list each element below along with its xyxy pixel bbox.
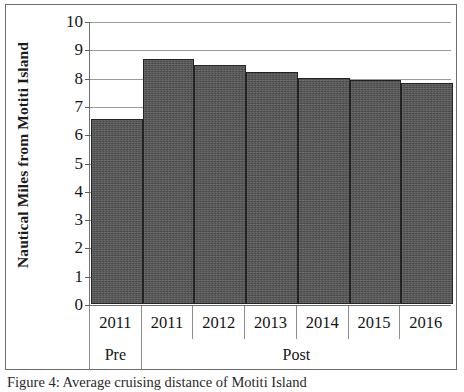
y-tick-label-9: 9 [57, 41, 83, 58]
y-tick-label-2: 2 [57, 239, 83, 256]
x-axis-year-cell: 2011 [89, 306, 141, 339]
bar[interactable] [350, 80, 402, 304]
x-axis-year-cell: 2015 [348, 306, 400, 339]
y-axis-title-container: Nautical Miles from Motiti Island [6, 5, 40, 305]
x-axis-year-cell: 2014 [296, 306, 348, 339]
bar[interactable] [298, 78, 350, 304]
y-tick-mark-6 [85, 135, 90, 136]
x-axis-year-row: 2011201120122013201420152016 [89, 306, 451, 339]
plot-area [89, 22, 451, 306]
figure-frame: Nautical Miles from Motiti Island 109876… [5, 4, 457, 370]
bar[interactable] [194, 65, 246, 304]
y-tick-mark-3 [85, 220, 90, 221]
y-axis-tick-labels: 109876543210 [55, 22, 83, 306]
y-axis-title: Nautical Miles from Motiti Island [14, 42, 32, 268]
y-tick-mark-9 [85, 50, 90, 51]
bar[interactable] [143, 59, 195, 304]
y-tick-label-5: 5 [57, 155, 83, 172]
y-tick-label-7: 7 [57, 98, 83, 115]
x-axis-year-cell: 2012 [192, 306, 244, 339]
bar-series [91, 22, 451, 304]
y-tick-mark-1 [85, 277, 90, 278]
x-axis-year-cell: 2013 [244, 306, 296, 339]
y-tick-label-3: 3 [57, 211, 83, 228]
x-axis-label-table: 2011201120122013201420152016 PrePost [89, 306, 451, 370]
y-tick-mark-8 [85, 79, 90, 80]
y-tick-mark-7 [85, 107, 90, 108]
x-axis-group-row: PrePost [89, 339, 451, 370]
bar[interactable] [401, 83, 453, 304]
x-axis-group-cell-pre: Pre [89, 339, 141, 370]
plot-box [89, 22, 451, 306]
y-tick-mark-10 [85, 22, 90, 23]
bar[interactable] [246, 72, 298, 304]
y-tick-label-4: 4 [57, 183, 83, 200]
x-axis-year-cell: 2011 [141, 306, 193, 339]
y-tick-label-6: 6 [57, 126, 83, 143]
y-tick-label-0: 0 [57, 296, 83, 313]
y-tick-mark-2 [85, 248, 90, 249]
y-tick-label-8: 8 [57, 70, 83, 87]
y-tick-label-10: 10 [57, 13, 83, 30]
x-axis-group-cell-post: Post [141, 339, 451, 370]
y-tick-label-1: 1 [57, 268, 83, 285]
y-tick-mark-4 [85, 192, 90, 193]
bar[interactable] [91, 119, 143, 304]
y-tick-mark-5 [85, 164, 90, 165]
x-axis-year-cell: 2016 [399, 306, 451, 339]
figure-caption: Figure 4: Average cruising distance of M… [7, 374, 457, 391]
